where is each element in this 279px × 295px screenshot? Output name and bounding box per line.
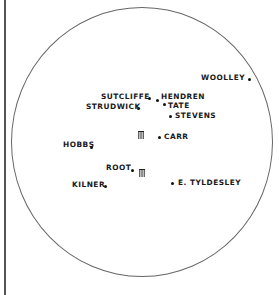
fielder-name-label: E. TYLDESLEY	[178, 178, 241, 187]
fielder-name-label: WOOLLEY	[201, 73, 245, 82]
fielder-position-dot	[248, 78, 251, 81]
fielder-position-dot	[156, 99, 159, 102]
wicket-stumps-icon	[139, 162, 145, 170]
fielder-name-label: TATE	[168, 101, 190, 110]
fielder-name-label: HENDREN	[161, 92, 205, 101]
fielder-name-label: STRUDWICK	[86, 102, 141, 111]
fielder-position-dot	[169, 115, 172, 118]
page-margin-line	[4, 0, 6, 295]
wicket-stumps-icon	[138, 124, 144, 132]
field-boundary-circle	[11, 7, 273, 277]
fielder-name-label: ROOT	[106, 163, 131, 172]
fielder-name-label: CARR	[164, 132, 189, 141]
fielder-position-dot	[163, 103, 166, 106]
fielder-position-dot	[131, 169, 134, 172]
fielder-name-label: SUTCLIFFE	[101, 92, 150, 101]
fielder-name-label: HOBBS	[63, 140, 95, 149]
fielder-name-label: KILNER	[72, 180, 105, 189]
fielder-position-dot	[171, 182, 174, 185]
fielder-position-dot	[158, 136, 161, 139]
fielder-name-label: STEVENS	[175, 111, 216, 120]
